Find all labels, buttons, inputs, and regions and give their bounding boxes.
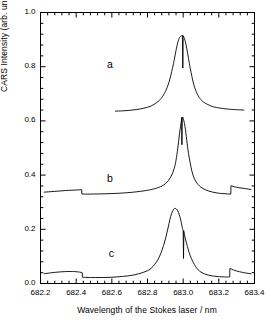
trace-label-c: c — [109, 247, 114, 259]
y-tick-label: 0.6 — [10, 115, 36, 124]
trace-label-a: a — [107, 58, 113, 70]
plot-canvas — [0, 0, 268, 325]
x-tick-label: 682.8 — [128, 288, 168, 297]
data-traces — [44, 36, 251, 278]
x-tick-label: 682.4 — [56, 288, 96, 297]
cars-spectra-figure: CARS Intensity (arb. units) Wavelength o… — [0, 0, 268, 325]
narrow-feature-b — [182, 117, 183, 144]
narrow-feature-a — [182, 36, 183, 69]
x-tick-label: 682.6 — [92, 288, 132, 297]
y-tick-label: 0.0 — [10, 278, 36, 287]
trace-a — [115, 36, 243, 112]
trace-label-b: b — [107, 172, 113, 184]
x-tick-label: 683.4 — [235, 288, 269, 297]
narrow-feature-c — [183, 231, 184, 259]
y-tick-label: 0.2 — [10, 224, 36, 233]
trace-b — [44, 117, 251, 194]
x-tick-label: 682.2 — [21, 288, 61, 297]
trace-c — [44, 208, 251, 277]
y-axis-label: CARS Intensity (arb. units) — [0, 0, 9, 92]
x-tick-label: 683.2 — [199, 288, 239, 297]
axis-ticks — [41, 13, 255, 284]
axes-frame — [41, 13, 255, 284]
y-tick-label: 1.0 — [10, 7, 36, 16]
x-tick-label: 683.0 — [163, 288, 203, 297]
x-axis-label: Wavelength of the Stokes laser / nm — [40, 305, 254, 315]
y-tick-label: 0.4 — [10, 170, 36, 179]
y-tick-label: 0.8 — [10, 61, 36, 70]
